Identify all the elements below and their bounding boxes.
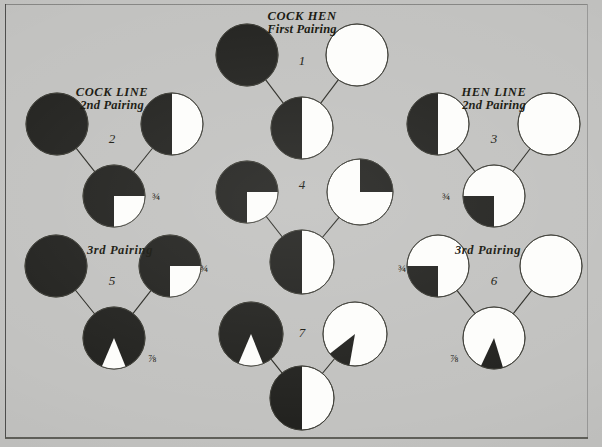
hen-disc-7 bbox=[323, 302, 387, 366]
heading-line1: 3rd Pairing bbox=[30, 244, 210, 257]
breeding-diagram-plate: 12¾3¾45¾⅞6¾⅞7COCK HENFirst PairingCOCK L… bbox=[0, 0, 602, 447]
link-hen-to-offspring-4 bbox=[322, 217, 339, 238]
offspring-disc-1 bbox=[271, 97, 333, 159]
fraction-label-offspring-6: ⅞ bbox=[450, 352, 458, 364]
link-hen-to-offspring-5 bbox=[133, 290, 152, 314]
heading-hen-3rd: 3rd Pairing bbox=[398, 244, 578, 257]
pairing-number-4: 4 bbox=[282, 177, 322, 193]
fraction-label-offspring-3: ¾ bbox=[442, 190, 450, 202]
link-cock-to-offspring-7 bbox=[271, 359, 283, 374]
heading-cock-line: COCK LINE2nd Pairing bbox=[22, 86, 202, 112]
fraction-label-offspring-5: ⅞ bbox=[148, 352, 156, 364]
pairing-number-1: 1 bbox=[282, 53, 322, 69]
pairing-number-5: 5 bbox=[92, 273, 132, 289]
pairing-number-6: 6 bbox=[474, 273, 514, 289]
link-cock-to-offspring-2 bbox=[76, 148, 95, 172]
link-hen-to-offspring-2 bbox=[133, 148, 153, 173]
link-cock-to-offspring-1 bbox=[265, 79, 283, 103]
offspring-disc-5 bbox=[83, 307, 145, 369]
heading-line1: 3rd Pairing bbox=[398, 244, 578, 257]
fraction-label-offspring-2: ¾ bbox=[152, 190, 160, 202]
offspring-disc-6 bbox=[463, 307, 525, 369]
offspring-disc-7 bbox=[270, 366, 334, 430]
offspring-disc-4 bbox=[270, 230, 334, 294]
offspring-disc-2 bbox=[83, 165, 145, 227]
heading-line2: First Pairing bbox=[212, 23, 392, 36]
link-cock-to-offspring-3 bbox=[457, 148, 476, 172]
fraction-label-hen-5: ¾ bbox=[200, 262, 208, 274]
heading-hen-line: HEN LINE2nd Pairing bbox=[404, 86, 584, 112]
offspring-disc-3 bbox=[463, 165, 525, 227]
pairing-number-3: 3 bbox=[474, 131, 514, 147]
link-hen-to-offspring-6 bbox=[513, 290, 532, 314]
heading-cock-3rd: 3rd Pairing bbox=[30, 244, 210, 257]
pairing-number-2: 2 bbox=[92, 131, 132, 147]
link-hen-to-offspring-3 bbox=[513, 148, 531, 172]
heading-cock-hen: COCK HENFirst Pairing bbox=[212, 10, 392, 36]
pairing-number-7: 7 bbox=[282, 325, 322, 341]
hen-disc-4 bbox=[327, 159, 393, 225]
link-hen-to-offspring-7 bbox=[322, 358, 335, 373]
cock-disc-7 bbox=[219, 302, 283, 366]
cock-disc-4 bbox=[216, 161, 278, 223]
fraction-label-cock-6: ¾ bbox=[398, 262, 406, 274]
link-cock-to-offspring-6 bbox=[457, 290, 476, 314]
link-hen-to-offspring-1 bbox=[320, 79, 338, 103]
link-cock-to-offspring-5 bbox=[75, 290, 95, 315]
link-cock-to-offspring-4 bbox=[266, 216, 283, 237]
heading-line2: 2nd Pairing bbox=[404, 99, 584, 112]
heading-line2: 2nd Pairing bbox=[22, 99, 202, 112]
